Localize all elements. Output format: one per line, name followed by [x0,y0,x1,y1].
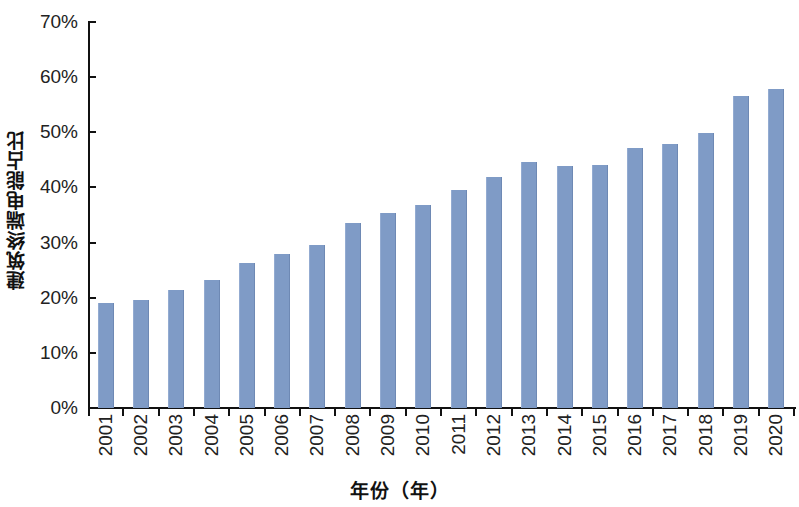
bar-chart: 建筑终端电能占比 0%10%20%30%40%50%60%70% 2001200… [0,0,799,507]
x-axis-tick-label: 2014 [553,414,577,474]
bar [380,213,396,408]
y-axis-tick-label: 40% [40,176,78,198]
bar [768,89,784,408]
y-axis-tick-label: 0% [51,397,78,419]
x-axis-tick-label: 2013 [517,414,541,474]
x-axis-tick-label-text: 2006 [271,414,293,456]
x-axis-tick-label: 2001 [94,414,118,474]
x-axis-tick-label: 2007 [305,414,329,474]
x-axis-title: 年份（年） [0,476,799,503]
x-axis-tick-label-text: 2009 [377,414,399,456]
bar [592,165,608,408]
x-axis-tick-label-text: 2001 [95,414,117,456]
x-axis-tick-label-text: 2008 [342,414,364,456]
x-axis-tick-label: 2018 [694,414,718,474]
bar [345,223,361,408]
bar [98,303,114,408]
bar [733,96,749,408]
y-axis-tick-label: 30% [40,232,78,254]
x-axis-tick-label-text: 2015 [589,414,611,456]
x-axis-tick-label-text: 2018 [695,414,717,456]
x-axis-tick-label: 2002 [129,414,153,474]
bar [274,254,290,408]
x-axis-tick-label-text: 2003 [165,414,187,456]
x-axis-tick-label-text: 2005 [236,414,258,456]
bar [557,166,573,408]
plot-area [88,22,794,408]
bar [486,177,502,408]
x-axis-tick-label-text: 2012 [483,414,505,456]
x-axis-tick-label: 2012 [482,414,506,474]
bar [698,133,714,408]
x-axis-tick-label: 2008 [341,414,365,474]
x-axis-tick-label: 2019 [729,414,753,474]
bar [168,290,184,408]
x-axis-tick-label: 2020 [764,414,788,474]
x-axis-tick-label: 2004 [200,414,224,474]
x-axis-tick-label-text: 2004 [201,414,223,456]
y-axis-tick-label: 20% [40,287,78,309]
bar [239,263,255,408]
x-axis-tick-label-text: 2017 [659,414,681,456]
x-axis-tick-label: 2009 [376,414,400,474]
x-axis-tick-label-text: 2010 [412,414,434,456]
y-axis-tick-label: 10% [40,342,78,364]
x-axis-tick-label-text: 2020 [765,414,787,456]
y-axis-tick-label: 50% [40,121,78,143]
x-axis-tick-label: 2003 [164,414,188,474]
x-axis-tick-label: 2015 [588,414,612,474]
x-axis-tick-label: 2005 [235,414,259,474]
bar [451,190,467,408]
bar [309,245,325,408]
x-axis-tick-label-text: 2016 [624,414,646,456]
x-axis-tick-label: 2017 [658,414,682,474]
bar [627,148,643,408]
bar [415,205,431,408]
y-axis-title-text: 建筑终端电能占比 [2,130,29,290]
bars-layer [88,22,794,408]
x-axis-tick-label: 2011 [447,414,471,474]
x-axis-tick-label-text: 2007 [306,414,328,456]
bar [133,300,149,408]
bar [521,162,537,408]
x-axis-tick-label-text: 2014 [554,414,576,456]
x-axis-tick-label: 2010 [411,414,435,474]
x-axis-tick-labels: 2001200220032004200520062007200820092010… [88,414,794,476]
x-axis-tick-label: 2016 [623,414,647,474]
x-axis-tick-label-text: 2011 [448,414,470,455]
x-axis-tick-label-text: 2002 [130,414,152,456]
y-axis-tick-label: 70% [40,11,78,33]
x-axis-tick-label-text: 2013 [518,414,540,456]
y-axis-tick-label: 60% [40,66,78,88]
y-axis-tick-labels: 0%10%20%30%40%50%60%70% [28,0,82,420]
x-axis-tick-label-text: 2019 [730,414,752,456]
y-axis-title: 建筑终端电能占比 [0,0,30,420]
bar [204,280,220,408]
x-axis-tick-label: 2006 [270,414,294,474]
bar [662,144,678,408]
